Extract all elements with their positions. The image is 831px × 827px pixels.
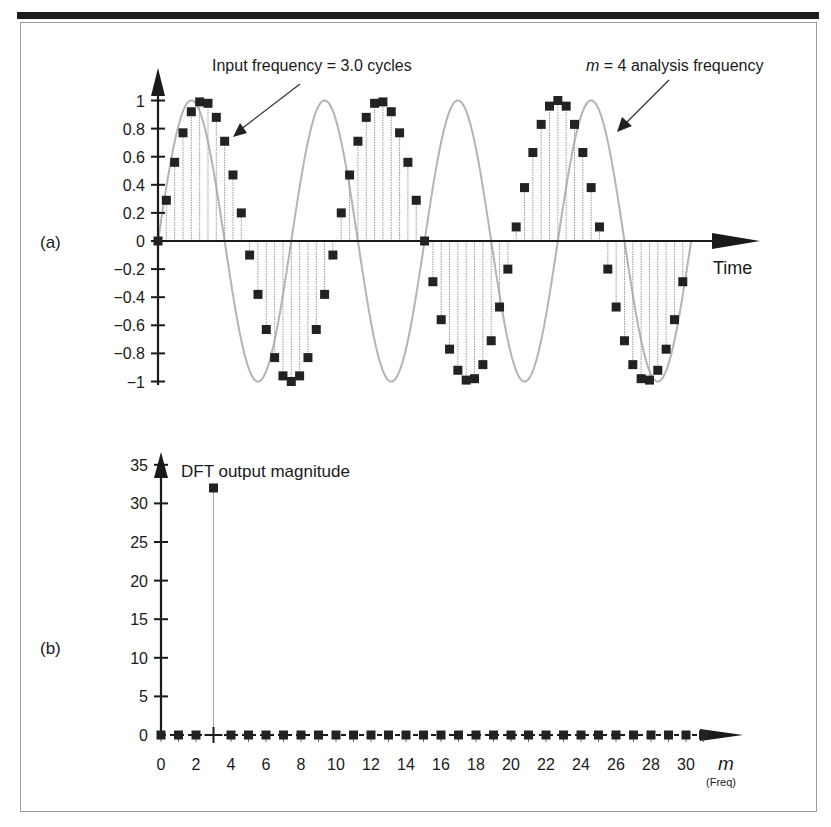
dft-marker <box>612 731 621 740</box>
x-tick-label: 28 <box>642 756 660 773</box>
dft-marker <box>209 483 218 492</box>
sample-marker <box>270 353 279 362</box>
time-axis-arrow-icon <box>712 233 760 249</box>
analysis-m-symbol: m <box>586 57 599 74</box>
sample-marker <box>253 290 262 299</box>
input-frequency-pointer <box>240 84 300 130</box>
dft-marker <box>647 731 656 740</box>
dft-marker <box>524 731 533 740</box>
sample-marker <box>370 99 379 108</box>
sample-marker <box>670 315 679 324</box>
sample-marker <box>603 265 612 274</box>
sample-marker <box>512 222 521 231</box>
dft-marker <box>367 731 376 740</box>
sample-marker <box>537 120 546 129</box>
dft-marker <box>594 731 603 740</box>
y-tick-label: 25 <box>130 534 148 551</box>
amplitude-axis-arrow-icon <box>151 68 165 96</box>
y-tick-label: 5 <box>139 688 148 705</box>
x-tick-label: 12 <box>362 756 380 773</box>
sample-marker <box>262 325 271 334</box>
sample-marker <box>470 374 479 383</box>
sample-marker <box>437 315 446 324</box>
sample-marker <box>353 137 362 146</box>
sample-marker <box>212 113 221 122</box>
sample-marker <box>520 183 529 192</box>
sample-marker <box>187 107 196 116</box>
dft-marker <box>192 731 201 740</box>
sample-marker <box>203 99 212 108</box>
sample-marker <box>403 158 412 167</box>
sample-marker <box>328 251 337 260</box>
sample-marker <box>287 377 296 386</box>
y-tick-label: 10 <box>130 650 148 667</box>
sample-marker <box>428 277 437 286</box>
sample-marker <box>387 107 396 116</box>
sample-marker <box>637 374 646 383</box>
dft-marker <box>227 731 236 740</box>
y-tick-label: 0 <box>139 727 148 744</box>
sample-marker <box>528 148 537 157</box>
dft-marker <box>699 731 708 740</box>
panel-a-label: (a) <box>40 233 61 252</box>
x-tick-label: 20 <box>502 756 520 773</box>
analysis-annotation-text: = 4 analysis frequency <box>599 57 763 74</box>
frequency-axis-label: m <box>718 753 734 774</box>
dft-marker <box>507 731 516 740</box>
dft-marker <box>244 731 253 740</box>
sample-marker <box>178 128 187 137</box>
y-tick-label: −0.6 <box>113 317 145 334</box>
sample-marker <box>503 265 512 274</box>
dft-marker <box>437 731 446 740</box>
x-tick-label: 18 <box>467 756 485 773</box>
sample-marker <box>320 290 329 299</box>
sample-marker <box>487 336 496 345</box>
magnitude-axis-ticks: 35302520151050 <box>130 457 168 744</box>
y-tick-label: 1 <box>136 93 145 110</box>
sample-marker <box>395 128 404 137</box>
sample-marker <box>378 97 387 106</box>
sample-marker <box>220 137 229 146</box>
sample-marker <box>195 97 204 106</box>
dft-marker <box>332 731 341 740</box>
y-tick-label: −0.2 <box>113 261 145 278</box>
dft-marker <box>664 731 673 740</box>
y-tick-label: 35 <box>130 457 148 474</box>
y-tick-label: 0 <box>136 233 145 250</box>
x-tick-label: 16 <box>432 756 450 773</box>
sample-marker <box>562 102 571 111</box>
y-tick-label: 30 <box>130 495 148 512</box>
x-tick-label: 26 <box>607 756 625 773</box>
sample-marker <box>420 237 429 246</box>
sample-marker <box>678 277 687 286</box>
dft-marker <box>454 731 463 740</box>
sample-marker <box>620 336 629 345</box>
dft-marker <box>419 731 428 740</box>
sample-marker <box>612 303 621 312</box>
sample-marker <box>445 345 454 354</box>
sample-marker <box>462 376 471 385</box>
frequency-axis-ticks: 024681012141618202224262830 <box>157 756 695 773</box>
frequency-axis-sublabel: (Freq) <box>706 776 736 788</box>
sample-marker <box>362 113 371 122</box>
y-tick-label: −0.4 <box>113 289 145 306</box>
sample-marker <box>578 148 587 157</box>
x-tick-label: 30 <box>677 756 695 773</box>
x-tick-label: 4 <box>227 756 236 773</box>
dft-marker <box>542 731 551 740</box>
dft-marker <box>402 731 411 740</box>
x-tick-label: 0 <box>157 756 166 773</box>
x-tick-label: 22 <box>537 756 555 773</box>
sample-marker <box>662 345 671 354</box>
sample-marker <box>162 196 171 205</box>
dft-marker <box>577 731 586 740</box>
sample-marker <box>478 360 487 369</box>
x-tick-label: 14 <box>397 756 415 773</box>
sample-marker <box>653 366 662 375</box>
dft-output-points <box>157 483 709 743</box>
sample-marker <box>645 376 654 385</box>
analysis-frequency-pointer <box>624 80 669 125</box>
x-tick-label: 8 <box>297 756 306 773</box>
y-tick-label: 15 <box>130 611 148 628</box>
sample-marker <box>295 371 304 380</box>
